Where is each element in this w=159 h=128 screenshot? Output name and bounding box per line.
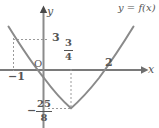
parabola-figure: y x O y = f(x) 3 2 −1 3 4 − 25 8: [0, 0, 159, 128]
vertex-y-fraction: 25 8: [36, 99, 52, 123]
y-axis-label: y: [47, 6, 53, 17]
y-intercept-label: 3: [52, 32, 60, 43]
left-root-label: −1: [8, 71, 25, 82]
vertex-y-minus-sign: −: [27, 104, 36, 117]
vertex-x-numerator: 3: [64, 38, 73, 49]
vertex-x-fraction: 3 4: [64, 38, 73, 62]
x-axis-label: x: [148, 64, 154, 75]
right-root-label: 2: [105, 57, 113, 68]
vertex-x-denominator: 4: [64, 52, 73, 63]
origin-label: O: [34, 59, 42, 69]
vertex-y-numerator: 25: [36, 99, 52, 110]
coordinate-plane-svg: [0, 0, 159, 128]
function-label: y = f(x): [118, 3, 156, 13]
vertex-y-denominator: 8: [36, 113, 52, 124]
